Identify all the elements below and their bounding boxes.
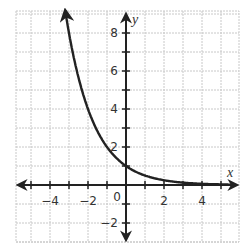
y-axis-label: y: [130, 12, 139, 27]
x-tick-label: 4: [198, 194, 206, 208]
y-tick-label: 4: [110, 102, 118, 116]
y-tick-label: 6: [110, 64, 118, 78]
exponential-graph: −4−224−224680 x y: [0, 0, 245, 251]
x-axis-label: x: [226, 165, 234, 180]
x-tick-label: −4: [41, 194, 59, 208]
x-tick-label: 2: [160, 194, 168, 208]
exponential-curve: [65, 10, 232, 184]
origin-label: 0: [113, 190, 121, 204]
x-tick-label: −2: [79, 194, 97, 208]
y-tick-label: −2: [100, 216, 118, 230]
y-tick-label: 8: [110, 26, 118, 40]
